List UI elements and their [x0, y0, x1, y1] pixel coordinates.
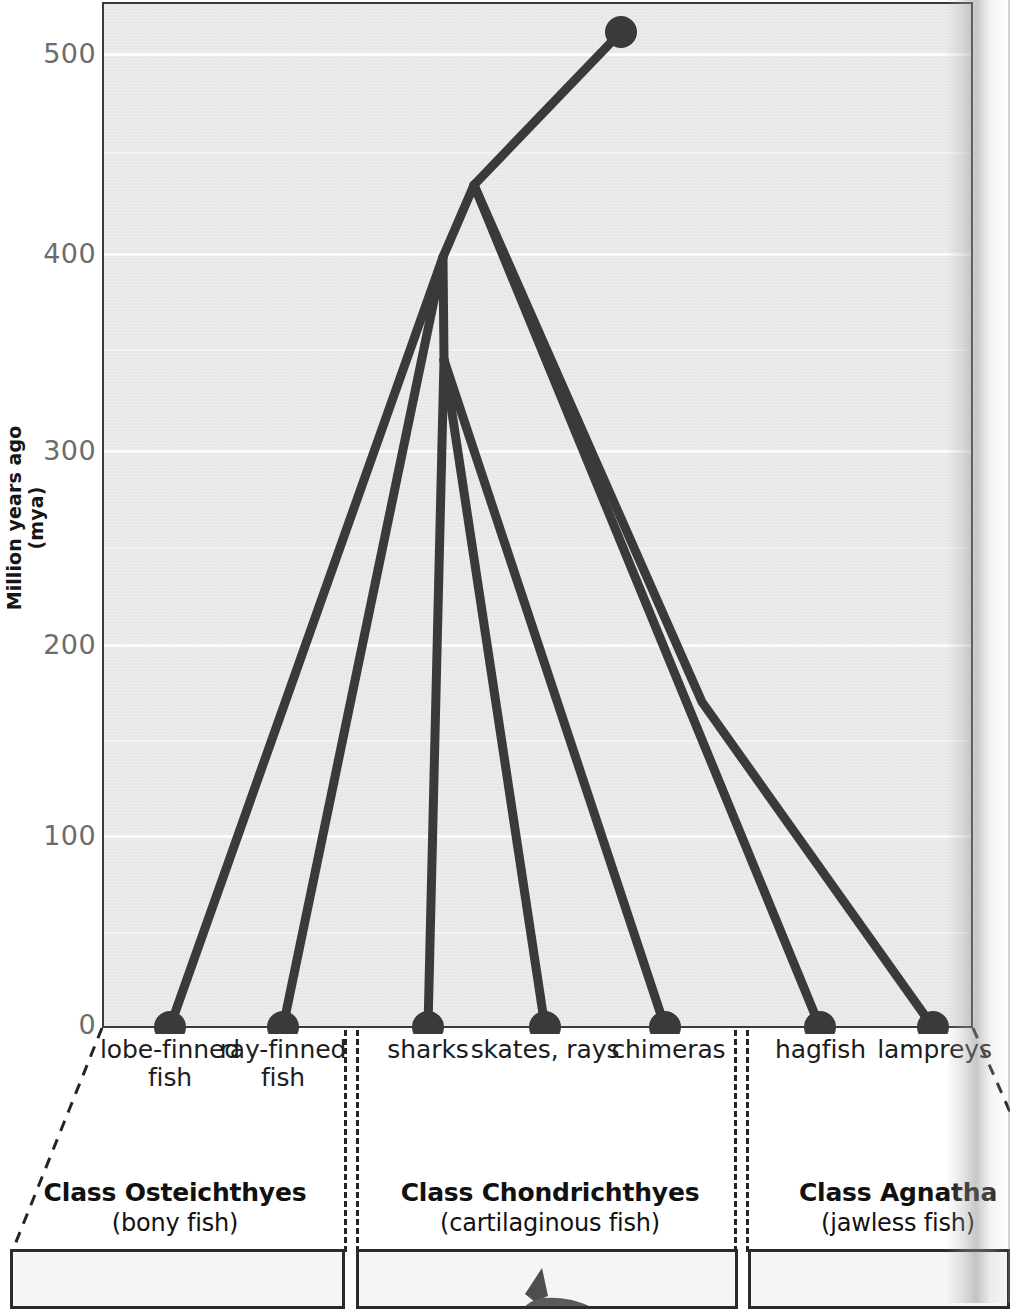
image-box-cartilaginous-fish — [356, 1249, 738, 1309]
class-name: Class Osteichthyes — [40, 1178, 310, 1207]
class-subtitle: (jawless fish) — [778, 1209, 1010, 1237]
cartilaginous-fish-illustration — [359, 1252, 738, 1309]
class-name: Class Agnatha — [778, 1178, 1010, 1207]
class-caption-agnatha: Class Agnatha (jawless fish) — [778, 1178, 1010, 1237]
box-texture — [751, 1252, 1007, 1306]
class-name: Class Chondrichthyes — [395, 1178, 705, 1207]
class-caption-chondrichthyes: Class Chondrichthyes (cartilaginous fish… — [395, 1178, 705, 1237]
class-subtitle: (cartilaginous fish) — [395, 1209, 705, 1237]
page-edge-line — [1008, 0, 1010, 1303]
image-box-jawless-fish — [748, 1249, 1010, 1309]
class-caption-osteichthyes: Class Osteichthyes (bony fish) — [40, 1178, 310, 1237]
perspective-line-right — [973, 1028, 1010, 1112]
box-texture — [13, 1252, 342, 1306]
image-box-bony-fish — [10, 1249, 345, 1309]
ray-dorsal-fin — [525, 1268, 548, 1302]
class-subtitle: (bony fish) — [40, 1209, 310, 1237]
